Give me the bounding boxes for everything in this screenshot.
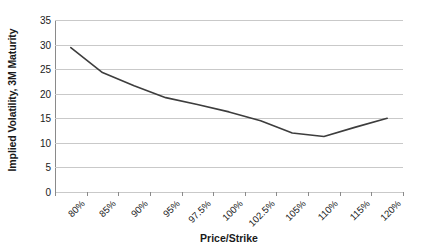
y-axis-tick-labels: 05101520253035 <box>24 0 55 251</box>
y-axis-tick-label: 0 <box>24 187 55 198</box>
x-axis-tick <box>340 192 341 196</box>
x-axis-tick-label: 100% <box>220 198 245 223</box>
x-axis-tick-label: 110% <box>315 198 339 222</box>
data-series-line <box>55 20 403 192</box>
y-axis-tick-label: 30 <box>24 39 55 50</box>
y-axis-tick-label: 35 <box>24 15 55 26</box>
x-axis-tick-label: 80% <box>65 198 86 219</box>
y-axis-tick-label: 25 <box>24 64 55 75</box>
x-axis-tick <box>118 192 119 196</box>
y-axis-title: Implied Volatility, 3M Maturity <box>0 0 24 200</box>
x-axis-tick-label: 115% <box>347 198 371 222</box>
y-axis-tick-label: 20 <box>24 88 55 99</box>
x-axis-tick-label: 105% <box>283 198 308 223</box>
x-axis-tick <box>182 192 183 196</box>
y-axis-tick-label: 5 <box>24 162 55 173</box>
x-axis-tick <box>87 192 88 196</box>
x-axis-tick <box>55 192 56 196</box>
x-axis-tick-label: 102.5% <box>246 198 277 229</box>
y-axis-tick-label: 10 <box>24 137 55 148</box>
plot-area <box>55 20 403 192</box>
x-axis-title: Price/Strike <box>55 232 403 244</box>
x-axis-tick-label: 97.5% <box>186 198 213 225</box>
y-axis-title-text: Implied Volatility, 3M Maturity <box>6 29 18 172</box>
x-axis-tick-label: 120% <box>378 198 403 223</box>
y-axis-tick-label: 15 <box>24 113 55 124</box>
x-axis-tick <box>245 192 246 196</box>
gridline <box>55 192 403 193</box>
x-axis-tick <box>150 192 151 196</box>
x-axis-tick <box>213 192 214 196</box>
x-axis-tick <box>371 192 372 196</box>
x-axis-tick-label: 85% <box>97 198 118 219</box>
x-axis-tick-label: 95% <box>160 198 181 219</box>
x-axis-tick <box>276 192 277 196</box>
x-axis-tick <box>403 192 404 196</box>
chart-container: Implied Volatility, 3M Maturity 05101520… <box>0 0 423 251</box>
x-axis-tick <box>308 192 309 196</box>
x-axis-tick-label: 90% <box>129 198 150 219</box>
